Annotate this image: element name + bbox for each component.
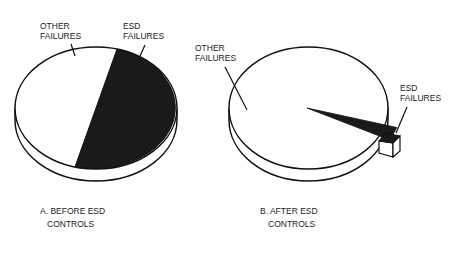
label-b-other-2: FAILURES	[195, 53, 236, 63]
pie-chart-after: OTHER FAILURES ESD FAILURES B. AFTER ESD…	[195, 43, 441, 229]
pie-chart-before: OTHER FAILURES ESD FAILURES A. BEFORE ES…	[15, 21, 177, 229]
leader-b-esd	[396, 107, 407, 133]
label-b-esd-2: FAILURES	[400, 93, 441, 103]
label-b-esd-1: ESD	[400, 83, 417, 93]
esd-block-front	[379, 141, 393, 157]
label-a-esd-2: FAILURES	[123, 31, 164, 41]
caption-a-1: A. BEFORE ESD	[40, 206, 105, 216]
caption-b-2: CONTROLS	[268, 219, 316, 229]
caption-b-1: B. AFTER ESD	[260, 206, 318, 216]
label-a-esd-1: ESD	[123, 21, 140, 31]
pie-b-slice-esd-block	[379, 133, 400, 157]
caption-a-2: CONTROLS	[47, 219, 95, 229]
leader-a-esd	[140, 45, 145, 56]
label-b-other-1: OTHER	[195, 43, 225, 53]
label-a-other-1: OTHER	[40, 21, 70, 31]
figure-canvas: OTHER FAILURES ESD FAILURES A. BEFORE ES…	[0, 0, 457, 260]
label-a-other-2: FAILURES	[40, 31, 81, 41]
